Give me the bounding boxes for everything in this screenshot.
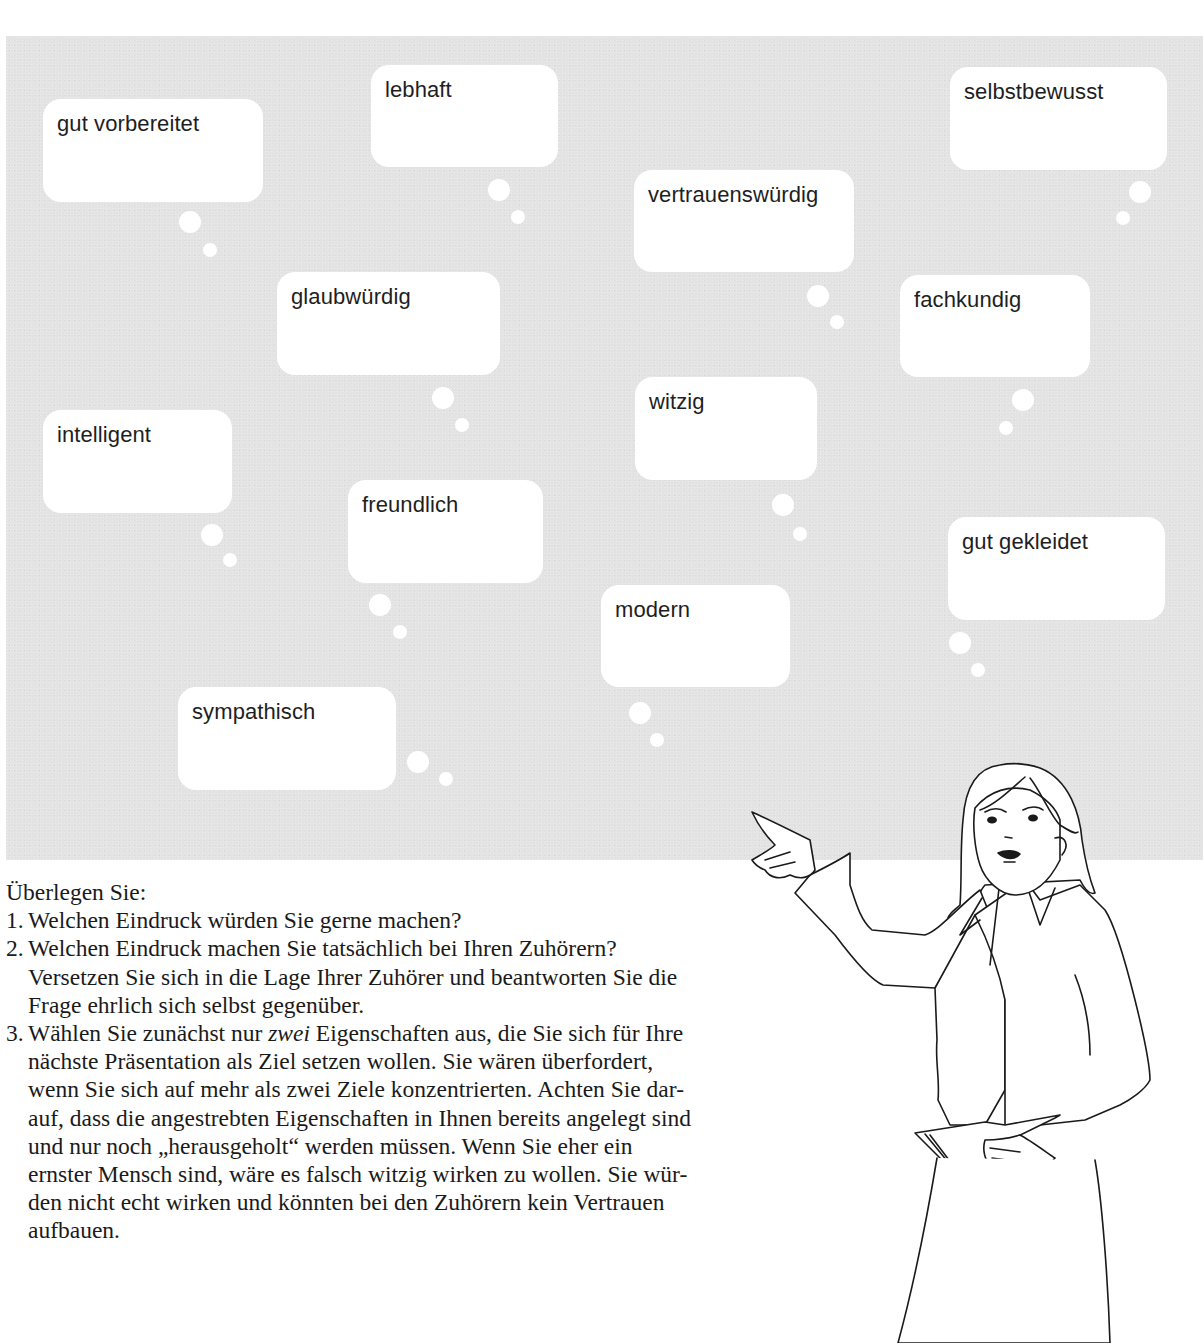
thought-dot-icon bbox=[650, 733, 664, 747]
thought-dot-icon bbox=[407, 751, 429, 773]
thought-bubble: selbstbewusst bbox=[950, 67, 1167, 170]
thought-bubble: freundlich bbox=[348, 480, 543, 583]
thought-dot-icon bbox=[1116, 211, 1130, 225]
trait-label: gut vorbereitet bbox=[57, 111, 199, 136]
thought-dot-icon bbox=[772, 494, 794, 516]
thought-bubble: witzig bbox=[635, 377, 817, 480]
thought-dot-icon bbox=[439, 772, 453, 786]
trait-label: selbstbewusst bbox=[964, 79, 1103, 104]
thought-dot-icon bbox=[369, 594, 391, 616]
thought-bubble: intelligent bbox=[43, 410, 232, 513]
trait-label: witzig bbox=[649, 389, 705, 414]
thought-dot-icon bbox=[223, 553, 237, 567]
thought-dot-icon bbox=[432, 387, 454, 409]
thought-bubble: modern bbox=[601, 585, 790, 687]
thought-dot-icon bbox=[393, 625, 407, 639]
trait-label: fachkundig bbox=[914, 287, 1021, 312]
emphasis-zwei: zwei bbox=[268, 1020, 310, 1046]
thought-dot-icon bbox=[999, 421, 1013, 435]
trait-label: freundlich bbox=[362, 492, 458, 517]
thought-bubble: vertrauenswürdig bbox=[634, 170, 854, 272]
trait-label: vertrauenswürdig bbox=[648, 182, 818, 207]
thought-bubble: glaubwürdig bbox=[277, 272, 500, 375]
trait-label: modern bbox=[615, 597, 690, 622]
thought-dot-icon bbox=[201, 524, 223, 546]
thought-dot-icon bbox=[949, 632, 971, 654]
thought-bubble: sympathisch bbox=[178, 687, 396, 790]
thought-dot-icon bbox=[793, 527, 807, 541]
thought-dot-icon bbox=[488, 179, 510, 201]
thought-dot-icon bbox=[203, 243, 217, 257]
thought-dot-icon bbox=[179, 211, 201, 233]
thought-bubble: fachkundig bbox=[900, 275, 1090, 377]
thought-bubble: lebhaft bbox=[371, 65, 558, 167]
thought-dot-icon bbox=[1012, 389, 1034, 411]
thought-dot-icon bbox=[807, 285, 829, 307]
trait-label: glaubwürdig bbox=[291, 284, 411, 309]
presenter-illustration-icon bbox=[735, 760, 1203, 1343]
trait-label: lebhaft bbox=[385, 77, 452, 102]
thought-dot-icon bbox=[971, 663, 985, 677]
thought-dot-icon bbox=[830, 315, 844, 329]
thought-bubble: gut gekleidet bbox=[948, 517, 1165, 620]
trait-label: intelligent bbox=[57, 422, 151, 447]
thought-bubble: gut vorbereitet bbox=[43, 99, 263, 202]
thought-dot-icon bbox=[629, 702, 651, 724]
clipped-previous-line bbox=[0, 0, 1203, 6]
trait-label: gut gekleidet bbox=[962, 529, 1088, 554]
thought-dot-icon bbox=[1129, 181, 1151, 203]
thought-dot-icon bbox=[511, 210, 525, 224]
trait-label: sympathisch bbox=[192, 699, 315, 724]
thought-dot-icon bbox=[455, 418, 469, 432]
